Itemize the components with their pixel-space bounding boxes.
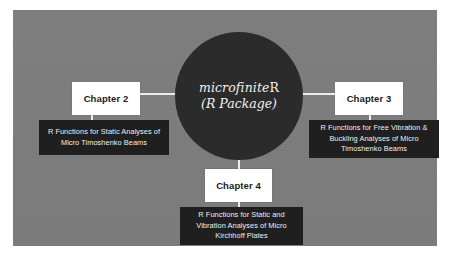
hub-title-prefix: microfinite bbox=[199, 80, 270, 95]
hub-subtitle: (R Package) bbox=[201, 97, 277, 111]
diagram-panel: microfiniteR (R Package) Chapter 2 R Fun… bbox=[13, 10, 437, 246]
hub-node-microfiniter: microfiniteR (R Package) bbox=[175, 32, 303, 160]
node-chapter-3[interactable]: Chapter 3 bbox=[335, 82, 403, 115]
node-chapter-4-label: Chapter 4 bbox=[216, 180, 261, 191]
node-chapter-2-description-text: R Functions for Static Analyses of Micro… bbox=[45, 127, 163, 148]
hub-title-suffix: R bbox=[270, 80, 280, 95]
node-chapter-2-label: Chapter 2 bbox=[84, 93, 129, 104]
node-chapter-4[interactable]: Chapter 4 bbox=[205, 169, 272, 202]
package-structure-diagram: microfiniteR (R Package) Chapter 2 R Fun… bbox=[0, 0, 451, 257]
node-chapter-3-label: Chapter 3 bbox=[347, 93, 392, 104]
node-chapter-4-description-text: R Functions for Static and Vibration Ana… bbox=[186, 210, 297, 242]
node-chapter-2-description: R Functions for Static Analyses of Micro… bbox=[39, 120, 169, 155]
node-chapter-3-description: R Functions for Free Vibration & Bucklin… bbox=[309, 120, 439, 158]
hub-title: microfiniteR bbox=[199, 81, 279, 95]
node-chapter-4-description: R Functions for Static and Vibration Ana… bbox=[180, 207, 303, 245]
node-chapter-3-description-text: R Functions for Free Vibration & Bucklin… bbox=[315, 123, 433, 155]
node-chapter-2[interactable]: Chapter 2 bbox=[72, 82, 140, 115]
